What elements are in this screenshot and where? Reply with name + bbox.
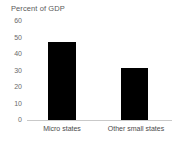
x-axis-line [27, 120, 172, 121]
plot-area: 60 50 40 30 20 10 0 Micro states Other s… [0, 0, 175, 142]
bar-chart: Percent of GDP 60 50 40 30 20 10 0 Micro… [0, 0, 175, 142]
y-tick-label-30: 30 [2, 67, 22, 75]
y-tick-label-10: 10 [2, 100, 22, 108]
x-tick-label-micro-states: Micro states [28, 124, 96, 133]
x-tick-label-other-small-states: Other small states [98, 124, 174, 133]
y-tick-label-20: 20 [2, 83, 22, 91]
bar-micro-states [48, 42, 76, 120]
y-tick-label-50: 50 [2, 34, 22, 42]
y-tick-label-40: 40 [2, 50, 22, 58]
y-tick-label-60: 60 [2, 17, 22, 25]
bar-other-small-states [121, 68, 148, 120]
y-tick-label-0: 0 [2, 116, 22, 124]
